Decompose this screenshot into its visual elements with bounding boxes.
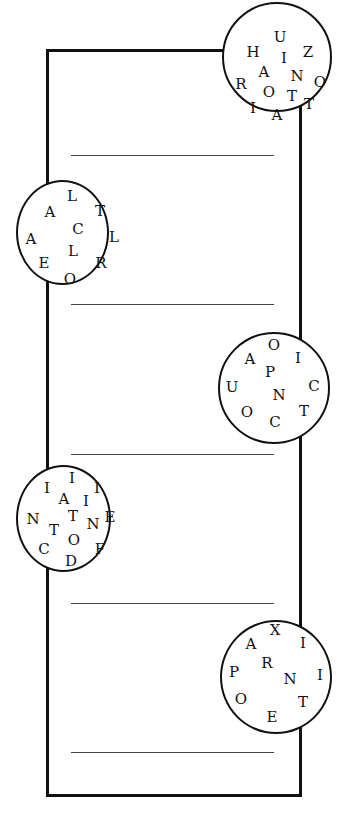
letter-circle-3: O A I P U C N O T C <box>218 332 330 444</box>
letter: R <box>235 77 246 92</box>
letter: C <box>72 222 83 237</box>
letter: A <box>246 637 257 652</box>
letter: O <box>241 405 253 420</box>
letter: O <box>68 533 80 548</box>
answer-line-2[interactable] <box>71 304 274 305</box>
letter: N <box>86 517 99 532</box>
answer-line-5[interactable] <box>71 752 274 753</box>
answer-line-1[interactable] <box>71 155 274 156</box>
letter: N <box>283 672 296 687</box>
letter-circle-5: X A I R P N I O T E <box>220 620 332 734</box>
letter: E <box>267 710 278 725</box>
letter-circle-4: I I A I I N T N E T O C F D <box>16 465 111 572</box>
letter: L <box>68 244 78 259</box>
letter: C <box>38 542 49 557</box>
letter: A <box>45 205 56 220</box>
letter: O <box>263 85 275 100</box>
letter: H <box>246 45 259 60</box>
letter: O <box>268 338 280 353</box>
letter: I <box>300 636 306 651</box>
letter: U <box>274 30 287 45</box>
letter: A <box>245 352 256 367</box>
letter: O <box>235 692 247 707</box>
letter: I <box>281 51 287 66</box>
letter: R <box>95 256 106 271</box>
letter: I <box>295 351 301 366</box>
letter: O <box>314 75 326 90</box>
letter: A <box>26 232 37 247</box>
letter: L <box>109 230 119 245</box>
letter: T <box>49 523 59 538</box>
answer-line-3[interactable] <box>71 454 274 455</box>
letter: I <box>94 481 100 496</box>
letter: I <box>69 471 75 486</box>
letter: A <box>259 65 270 80</box>
letter: I <box>44 481 50 496</box>
letter: F <box>95 542 105 557</box>
letter: P <box>229 665 239 680</box>
letter: D <box>65 554 77 569</box>
letter: E <box>39 256 50 271</box>
letter: E <box>105 510 116 525</box>
letter: T <box>298 695 308 710</box>
letter: T <box>287 89 297 104</box>
letter: A <box>59 492 70 507</box>
letter: X <box>270 623 281 638</box>
letter: I <box>317 668 323 683</box>
letter: N <box>272 388 285 403</box>
letter: T <box>95 204 105 219</box>
letter: C <box>308 379 319 394</box>
letter: I <box>83 494 89 509</box>
letter-circle-2: L A T C A L L E R O <box>16 180 109 285</box>
letter: R <box>261 656 272 671</box>
letter: C <box>269 415 280 430</box>
letter: U <box>226 380 239 395</box>
letter: T <box>299 404 309 419</box>
letter: O <box>64 272 76 287</box>
letter: L <box>67 189 77 204</box>
letter: T <box>68 509 78 524</box>
letter: Z <box>303 45 313 60</box>
letter-circle-1: U H I Z A N O R O T <box>222 2 332 112</box>
letter: N <box>26 512 39 527</box>
answer-line-4[interactable] <box>71 603 274 604</box>
letter: P <box>265 365 275 380</box>
letter: N <box>290 69 303 84</box>
